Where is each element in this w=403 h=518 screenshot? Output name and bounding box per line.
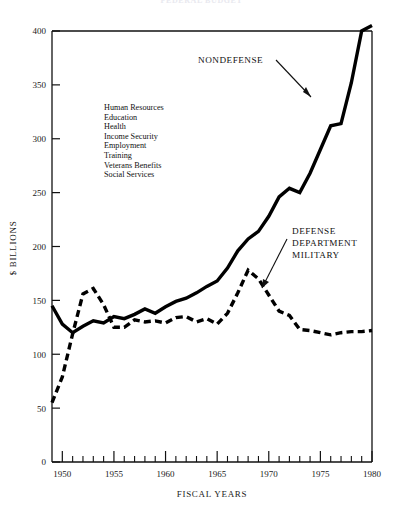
legend-item-5: Training [104, 151, 132, 160]
x-tick-label-1965: 1965 [208, 469, 227, 479]
x-axis-ticks: 1950195519601965197019751980 [53, 451, 381, 479]
x-axis-title: FISCAL YEARS [177, 489, 248, 499]
y-tick-label-200: 200 [33, 242, 47, 252]
annotation-defense-line-3: MILITARY [292, 250, 340, 260]
y-axis-ticks: 050100150200250300350400 [33, 26, 61, 467]
y-tick-label-400: 400 [33, 26, 47, 36]
x-tick-label-1950: 1950 [53, 469, 72, 479]
x-tick-label-1960: 1960 [157, 469, 176, 479]
y-tick-label-300: 300 [33, 134, 47, 144]
legend-item-7: Social Services [104, 170, 154, 179]
y-tick-label-150: 150 [33, 296, 47, 306]
annotation-defense: DEFENSE DEPARTMENT MILITARY [262, 226, 357, 288]
federal-budget-chart: FEDERAL BUDGET 050100150200250300350400 … [0, 0, 403, 518]
legend-item-6: Veterans Benefits [104, 161, 162, 170]
x-tick-label-1955: 1955 [105, 469, 124, 479]
series-defense-department-military [52, 270, 372, 403]
annotation-defense-arrowhead [262, 279, 269, 288]
annotation-defense-line-2: DEPARTMENT [292, 238, 357, 248]
y-tick-label-0: 0 [42, 457, 47, 467]
legend-item-1: Education [104, 113, 137, 122]
legend-item-0: Human Resources [104, 103, 164, 112]
series-nondefense [52, 26, 372, 333]
y-tick-label-250: 250 [33, 188, 47, 198]
y-tick-label-100: 100 [33, 350, 47, 360]
legend-item-3: Income Security [104, 132, 159, 141]
chart-svg: 050100150200250300350400 195019551960196… [0, 0, 403, 518]
chart-title: FEDERAL BUDGET [0, 0, 403, 5]
x-tick-label-1980: 1980 [363, 469, 382, 479]
annotation-nondefense-arrowhead [303, 87, 311, 97]
annotation-nondefense-label: NONDEFENSE [198, 55, 263, 65]
annotation-nondefense: NONDEFENSE [198, 55, 311, 97]
legend-item-4: Employment [104, 141, 147, 150]
legend-item-2: Health [104, 122, 126, 131]
x-tick-label-1970: 1970 [260, 469, 279, 479]
legend-block: Human ResourcesEducationHealthIncome Sec… [104, 103, 164, 179]
y-axis-title: $ BILLIONS [8, 221, 18, 276]
annotation-defense-line-1: DEFENSE [292, 226, 336, 236]
y-tick-label-50: 50 [37, 404, 47, 414]
x-tick-label-1975: 1975 [311, 469, 330, 479]
y-tick-label-350: 350 [33, 80, 47, 90]
